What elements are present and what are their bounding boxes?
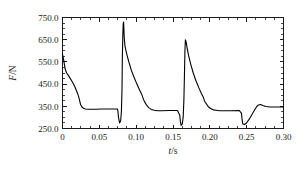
x-tick-label: 0.10 — [128, 132, 144, 142]
y-tick-label: 250.0 — [38, 124, 59, 134]
x-tick-label: 0.15 — [165, 132, 181, 142]
y-tick-label: 350.0 — [38, 102, 59, 112]
x-axis-title: t/s — [169, 146, 178, 156]
x-tick-label: 0.20 — [202, 132, 218, 142]
y-tick-label: 650.0 — [38, 35, 59, 45]
x-tick-label: 0.25 — [239, 132, 255, 142]
chart-canvas: 00.050.100.150.200.250.30 250.0350.0450.… — [0, 0, 306, 182]
y-tick-label: 750.0 — [38, 13, 59, 23]
y-tick-label: 550.0 — [38, 57, 59, 67]
x-tick-label: 0 — [60, 132, 65, 142]
svg-text:t/s: t/s — [169, 146, 178, 156]
x-tick-label: 0.30 — [276, 132, 292, 142]
y-tick-label: 450.0 — [38, 79, 59, 89]
figure-background — [0, 0, 306, 182]
y-axis-title: F/N — [8, 65, 18, 81]
force-time-chart-figure: 00.050.100.150.200.250.30 250.0350.0450.… — [0, 0, 306, 182]
x-tick-label: 0.05 — [91, 132, 107, 142]
svg-text:F/N: F/N — [8, 65, 18, 81]
